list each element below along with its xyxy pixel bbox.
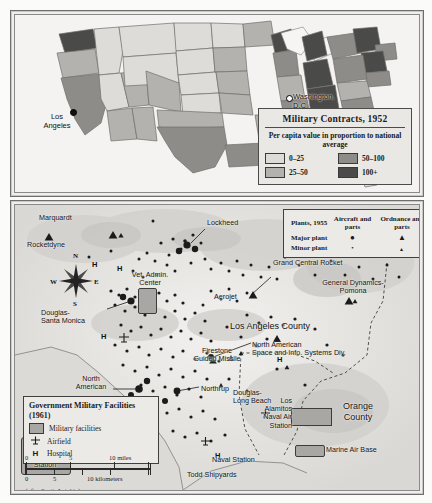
compass-south: S xyxy=(73,300,77,308)
major-aircraft-symbol: ● xyxy=(329,232,376,243)
label-north-american: North American xyxy=(71,375,111,391)
legend-class-50-100: 50–100 xyxy=(338,153,405,164)
scale-km-labels: 0 5 10 kilometers xyxy=(25,475,153,485)
us-map-frame: Los Angeles Washington, D.C. Military Co… xyxy=(14,14,420,193)
gov-legend-item-military-facilities: Military facilities xyxy=(29,423,153,434)
map-credit: (after Scott; Lotchin) xyxy=(25,487,153,491)
airfield-icon-graphic xyxy=(30,436,41,446)
compass-north: N xyxy=(73,252,78,260)
swatch-50-100 xyxy=(338,153,358,164)
label-orange-county: Orange County xyxy=(327,401,389,422)
gov-legend-item-airfield: Airfield xyxy=(29,436,153,448)
facility-marine-air-base xyxy=(295,445,325,457)
la-county-map-panel: H H H H H N S xyxy=(10,200,424,495)
label-north-american-space: North American Space and Info. Systems D… xyxy=(252,341,346,357)
hospital-marker-2: H xyxy=(117,264,122,273)
label-general-dynamics-pomona: General Dynamics- Pomona xyxy=(315,279,391,295)
plants-legend-col-ordnance: Ordnance and parts xyxy=(376,214,420,232)
plants-legend-row-minor: Minor plant • ▴ xyxy=(289,243,420,253)
facility-los-alamitos-naval-air-station xyxy=(291,408,332,426)
swatch-0-25 xyxy=(265,153,285,164)
label-marquardt: Marquardt xyxy=(39,214,72,222)
legend-class-100-plus: 100+ xyxy=(338,167,405,178)
label-marine-air-base: Marine Air Base xyxy=(326,446,377,454)
minor-aircraft-symbol: • xyxy=(329,243,376,253)
label-naval-station: Naval Station xyxy=(212,456,255,464)
legend-class-25-50: 25–50 xyxy=(265,167,332,178)
swatch-25-50 xyxy=(265,167,285,178)
swatch-100-plus xyxy=(338,167,358,178)
la-map-canvas: H H H H H N S xyxy=(15,205,419,490)
swatch-label-0-25: 0–25 xyxy=(289,154,304,163)
label-douglas-santa-monica: Douglas- Santa Monica xyxy=(41,309,85,325)
airfield-icon xyxy=(29,436,42,448)
facility-vet-admin-center xyxy=(138,288,157,314)
swatch-label-100-plus: 100+ xyxy=(362,168,378,177)
contracts-legend-swatches: 0–25 50–100 25–50 100+ xyxy=(265,153,405,178)
compass-east: E xyxy=(94,278,99,286)
label-los-angeles-county: Los Angeles County xyxy=(230,321,310,332)
label-rocketdyne: Rocketdyne xyxy=(27,241,65,249)
label-northrup: Northrup xyxy=(201,385,229,393)
plants-legend-major-label: Major plant xyxy=(289,232,329,243)
plants-legend: Plants, 1955 Aircraft and parts Ordnance… xyxy=(283,209,420,258)
scale-miles-labels: 0 5 10 miles xyxy=(25,454,153,463)
contracts-legend-title: Military Contracts, 1952 xyxy=(265,114,405,128)
us-map-canvas: Los Angeles Washington, D.C. Military Co… xyxy=(15,15,419,192)
scale-bar: 0 5 10 miles 0 5 10 kilometers xyxy=(25,454,153,491)
scale-km-10: 10 kilometers xyxy=(87,475,123,482)
plants-legend-col-aircraft: Aircraft and parts xyxy=(329,214,376,232)
city-marker-washington-dc xyxy=(286,95,293,102)
scale-miles-5: 5 xyxy=(69,454,72,461)
plants-legend-table: Plants, 1955 Aircraft and parts Ordnance… xyxy=(289,214,420,253)
scale-miles-10: 10 miles xyxy=(109,454,131,461)
contracts-legend-subtitle: Per capita value in proportion to nation… xyxy=(265,131,405,149)
label-todd-shipyards: Todd Shipyards xyxy=(187,471,237,479)
scale-km-0: 0 xyxy=(25,475,28,482)
contracts-legend: Military Contracts, 1952 Per capita valu… xyxy=(258,108,412,185)
plants-legend-title: Plants, 1955 xyxy=(289,214,329,232)
minor-ordnance-symbol: ▴ xyxy=(376,243,420,253)
gov-legend-title: Government Military Facilities (1961) xyxy=(29,401,153,420)
scale-miles-0: 0 xyxy=(25,454,28,461)
label-grand-central-rocket: Grand Central Rocket xyxy=(273,259,343,267)
compass-rose: N S E W xyxy=(49,254,103,310)
gov-legend-label-military: Military facilities xyxy=(49,424,101,433)
compass-west: W xyxy=(50,278,57,286)
swatch-label-25-50: 25–50 xyxy=(289,168,308,177)
map-figure: Los Angeles Washington, D.C. Military Co… xyxy=(0,0,432,503)
label-aerojet: Aerojet xyxy=(214,293,237,301)
us-contracts-map-panel: Los Angeles Washington, D.C. Military Co… xyxy=(10,10,424,197)
gov-legend-label-airfield: Airfield xyxy=(47,437,71,446)
hospital-marker-3: H xyxy=(101,332,106,341)
label-lockheed: Lockheed xyxy=(207,219,238,227)
plants-legend-minor-label: Minor plant xyxy=(289,243,329,253)
legend-class-0-25: 0–25 xyxy=(265,153,332,164)
label-firestone-guided-missile: Firestone Guided Missile xyxy=(185,347,249,363)
scale-km-5: 5 xyxy=(53,475,56,482)
label-vet-admin-center: Vet. Admin. Center xyxy=(125,271,175,287)
label-los-alamitos-naval-air-station: Los Alamitos Naval Air Station xyxy=(254,397,292,430)
plants-legend-row-major: Major plant ● ▲ xyxy=(289,232,420,243)
military-facility-swatch xyxy=(29,423,44,434)
la-map-frame: H H H H H N S xyxy=(14,204,420,491)
swatch-label-50-100: 50–100 xyxy=(362,154,385,163)
major-ordnance-symbol: ▲ xyxy=(376,232,420,243)
city-label-los-angeles: Los Angeles xyxy=(34,113,80,130)
